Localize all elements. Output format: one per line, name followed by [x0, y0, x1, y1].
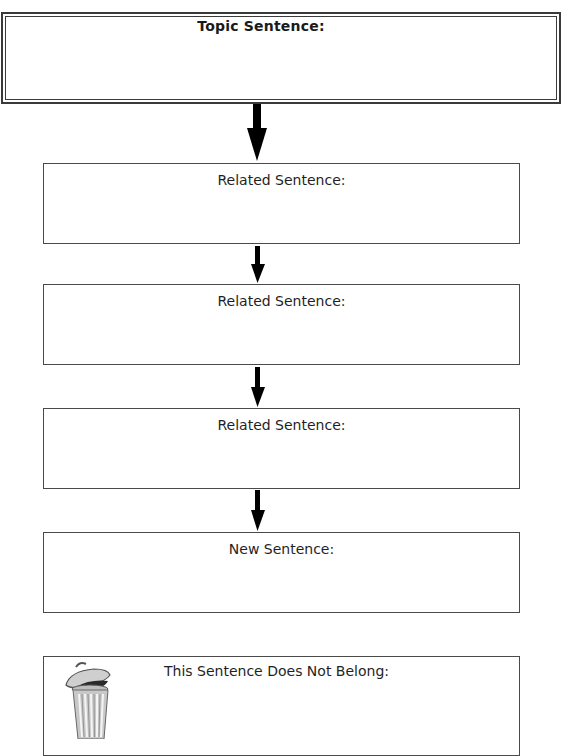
topic-sentence-label: Topic Sentence:: [3, 18, 519, 34]
topic-sentence-box[interactable]: Topic Sentence:: [1, 12, 561, 104]
trash-can-icon: [64, 659, 112, 739]
related-sentence-box-3[interactable]: Related Sentence:: [43, 408, 520, 489]
down-arrow-icon: [250, 246, 266, 284]
does-not-belong-box[interactable]: This Sentence Does Not Belong:: [43, 656, 520, 756]
new-sentence-label: New Sentence:: [44, 541, 519, 557]
related-sentence-label: Related Sentence:: [44, 293, 519, 309]
new-sentence-box[interactable]: New Sentence:: [43, 532, 520, 613]
down-arrow-icon: [246, 104, 268, 162]
related-sentence-box-1[interactable]: Related Sentence:: [43, 163, 520, 244]
down-arrow-icon: [250, 490, 266, 532]
related-sentence-label: Related Sentence:: [44, 172, 519, 188]
down-arrow-icon: [250, 367, 266, 408]
related-sentence-label: Related Sentence:: [44, 417, 519, 433]
related-sentence-box-2[interactable]: Related Sentence:: [43, 284, 520, 365]
does-not-belong-label: This Sentence Does Not Belong:: [164, 663, 389, 679]
